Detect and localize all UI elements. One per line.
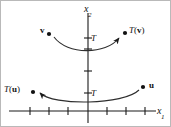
point-label-v: v xyxy=(40,26,45,35)
point-label-tu: T(u) xyxy=(4,85,20,94)
point-label-tv: T(v) xyxy=(129,26,145,35)
point-dot-tv xyxy=(123,31,127,35)
plot-canvas xyxy=(1,1,171,127)
point-dot-tu xyxy=(31,90,35,94)
x-axis-label: x1 xyxy=(157,106,165,119)
y-axis-label: x2 xyxy=(84,4,92,17)
x-axis-label-sub: 1 xyxy=(161,113,165,121)
point-dot-v xyxy=(47,32,51,36)
transform-label-lower: T xyxy=(91,89,96,98)
tv-close-paren: ) xyxy=(142,25,145,35)
linear-transformation-figure: x2 x1 v T(v) T(u) u T T xyxy=(0,0,171,127)
mapping-arrow-u-to-tu xyxy=(40,90,139,102)
point-dot-u xyxy=(141,85,145,89)
point-label-u: u xyxy=(149,81,154,90)
y-axis-label-sub: 2 xyxy=(88,11,92,19)
tu-close-paren: ) xyxy=(17,84,20,94)
transform-label-upper: T xyxy=(91,34,96,43)
